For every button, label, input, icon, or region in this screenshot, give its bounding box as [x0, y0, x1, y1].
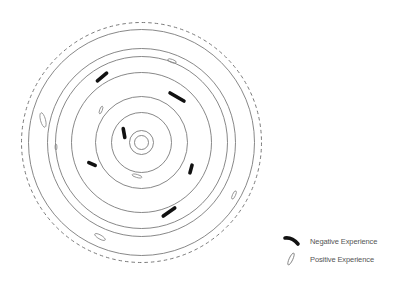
ring-7: [130, 131, 154, 155]
positive-experience-mark: [167, 58, 177, 64]
positive-experience-mark: [231, 190, 238, 199]
negative-experience-mark: [190, 165, 192, 173]
positive-experience-mark: [39, 112, 48, 128]
ring-1: [29, 30, 255, 256]
legend-negative: Negative Experience: [282, 232, 392, 250]
positive-marks-group: [39, 58, 238, 242]
negative-experience-mark: [170, 93, 184, 101]
positive-experience-mark: [98, 106, 103, 114]
negative-marks-group: [89, 73, 192, 216]
ring-2: [48, 49, 236, 237]
ring-4: [72, 73, 212, 213]
negative-experience-icon: [282, 233, 306, 249]
legend-positive: Positive Experience: [282, 250, 392, 268]
ring-5: [96, 97, 188, 189]
outer-dashed-ring: [22, 23, 262, 263]
rings-group: [22, 23, 262, 263]
negative-experience-mark: [97, 73, 106, 81]
concentric-rings-diagram: [0, 0, 280, 291]
positive-experience-mark: [132, 173, 142, 178]
legend-positive-label: Positive Experience: [310, 255, 374, 264]
ring-8: [135, 136, 149, 150]
legend: Negative Experience Positive Experience: [282, 232, 392, 268]
positive-experience-icon: [282, 251, 306, 267]
negative-experience-mark: [123, 129, 125, 138]
legend-negative-label: Negative Experience: [310, 237, 377, 246]
negative-experience-mark: [89, 163, 95, 166]
negative-experience-mark: [163, 208, 174, 216]
ring-6: [112, 113, 172, 173]
positive-experience-mark: [94, 232, 106, 241]
ring-3: [56, 57, 228, 229]
